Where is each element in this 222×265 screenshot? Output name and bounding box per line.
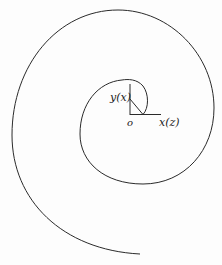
radius-line (130, 99, 143, 115)
origin-label: o (127, 118, 133, 128)
spiral-curve (12, 10, 214, 254)
spiral-drawing (0, 0, 222, 265)
x-axis-label: x(z) (159, 117, 180, 128)
y-axis-label: y(x) (110, 92, 131, 103)
spiral-diagram: y(x) o x(z) (0, 0, 222, 265)
